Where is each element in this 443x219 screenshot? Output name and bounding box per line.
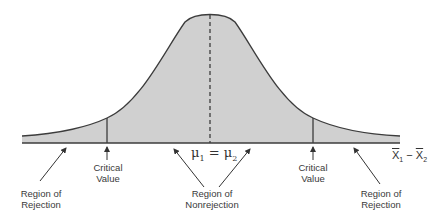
curve-area — [22, 15, 400, 144]
rejection-right-label: Region ofRejection — [358, 188, 404, 210]
distribution-diagram — [0, 0, 443, 219]
rejection-left-label: Region ofRejection — [18, 188, 64, 210]
critical-value-right-label: CriticalValue — [293, 162, 333, 184]
x-axis-label: X1 − X2 — [392, 149, 427, 163]
nonrejection-label: Region ofNonrejection — [182, 188, 242, 210]
arrow-rejection-right — [354, 148, 380, 184]
arrow-rejection-left — [40, 148, 66, 181]
mean-equality-label: μ1 = μ2 — [191, 145, 237, 163]
critical-value-left-label: CriticalValue — [88, 162, 128, 184]
